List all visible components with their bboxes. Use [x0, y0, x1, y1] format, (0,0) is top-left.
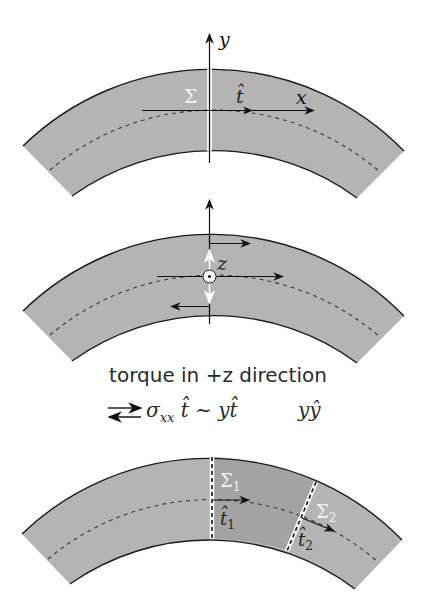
z-axis-dot-icon [208, 275, 211, 278]
y-yhat-expression: yŷ [298, 398, 321, 422]
panel-middle: z [23, 200, 404, 363]
panel-bottom: Σ1 Σ2 t̂1 t̂2 [22, 457, 402, 589]
stress-relation: t̂ ∼ yt̂ [181, 398, 238, 422]
panel-top: y x Σ t̂ [23, 28, 404, 198]
beam-band [23, 69, 404, 198]
y-axis-label: y [218, 28, 230, 50]
opposing-arrows-icon [108, 408, 141, 417]
sigma-symbol: σ [146, 398, 160, 422]
z-axis-label: z [216, 252, 228, 274]
beam-band [23, 234, 404, 363]
bent-beam-diagram: y x Σ t̂ z [0, 0, 436, 592]
sigma-label: Σ [184, 85, 197, 107]
stress-expression: σxx t̂ ∼ yt̂ [146, 398, 238, 425]
torque-caption: torque in +z direction [0, 363, 436, 387]
tangent-label: t̂ [236, 83, 244, 107]
x-axis-label: x [296, 86, 307, 108]
sigma-subscript: xx [160, 410, 175, 425]
